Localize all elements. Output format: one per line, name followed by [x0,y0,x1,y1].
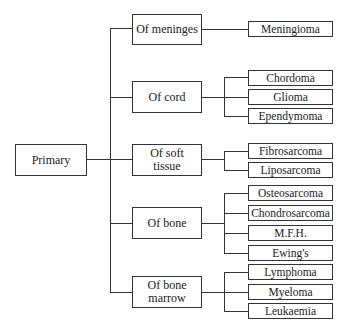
category-label-line2: marrow [148,292,185,305]
leaf-myeloma: Myeloma [248,284,333,300]
leaf-liposarcoma: Liposarcoma [248,162,333,178]
leaf-label: Lymphoma [264,266,316,279]
connector-cord-out [202,97,224,98]
leaf-osteosarcoma: Osteosarcoma [248,185,333,201]
category-label-line2: tissue [153,160,180,173]
leaf-label: Chordoma [266,72,315,85]
leaf-fibrosarcoma: Fibrosarcoma [248,143,333,159]
connector-meninges [110,28,132,29]
leaf-ewings: Ewing's [248,245,333,261]
leaf-lymphoma: Lymphoma [248,264,333,280]
connector-osteosarcoma [224,193,248,194]
root-node-primary: Primary [15,144,87,176]
connector-root [87,159,110,160]
connector-cord [110,97,132,98]
leaf-chondrosarcoma: Chondrosarcoma [248,205,333,221]
connector-bone-marrow [110,292,132,293]
leaf-label: Ewing's [272,247,309,260]
connector-chondrosarcoma [224,213,248,214]
connector-soft-tissue [110,159,132,160]
leaf-meningioma: Meningioma [248,21,333,37]
connector-ewings [224,253,248,254]
leaf-label: Leukaemia [265,305,316,318]
leaf-label: Meningioma [261,23,320,36]
connector-fibrosarcoma [224,151,248,152]
trunk-line [110,28,111,293]
leaf-leukaemia: Leukaemia [248,303,333,319]
connector-myeloma [224,292,248,293]
leaf-label: Ependymoma [259,110,323,123]
connector-leukaemia [224,311,248,312]
root-label: Primary [32,154,71,167]
leaf-label: Fibrosarcoma [259,145,322,158]
connector-bone [110,223,132,224]
leaf-chordoma: Chordoma [248,70,333,86]
bone-branch-line [224,193,225,253]
soft-branch-line [224,151,225,171]
category-bone: Of bone [132,207,202,239]
leaf-label: Chondrosarcoma [251,207,330,220]
connector-liposarcoma [224,170,248,171]
connector-meningioma [202,29,248,30]
category-cord: Of cord [132,81,202,113]
connector-lymphoma [224,272,248,273]
connector-marrow-out [202,292,224,293]
leaf-mfh: M.F.H. [248,225,333,241]
leaf-label: Liposarcoma [260,164,320,177]
category-label: Of bone [148,217,187,230]
leaf-label: Osteosarcoma [258,187,323,200]
category-label: Of cord [149,91,186,104]
leaf-label: Glioma [273,91,308,104]
category-label: Of meninges [136,23,198,36]
connector-mfh [224,233,248,234]
connector-soft-out [202,159,224,160]
leaf-label: M.F.H. [274,227,307,240]
leaf-label: Myeloma [268,286,312,299]
connector-chordoma [224,77,248,78]
category-soft-tissue: Of soft tissue [132,144,202,176]
connector-glioma [224,97,248,98]
category-bone-marrow: Of bone marrow [132,276,202,308]
connector-ependymoma [224,116,248,117]
leaf-glioma: Glioma [248,89,333,105]
connector-bone-out [202,223,224,224]
leaf-ependymoma: Ependymoma [248,108,333,124]
category-meninges: Of meninges [132,14,202,45]
